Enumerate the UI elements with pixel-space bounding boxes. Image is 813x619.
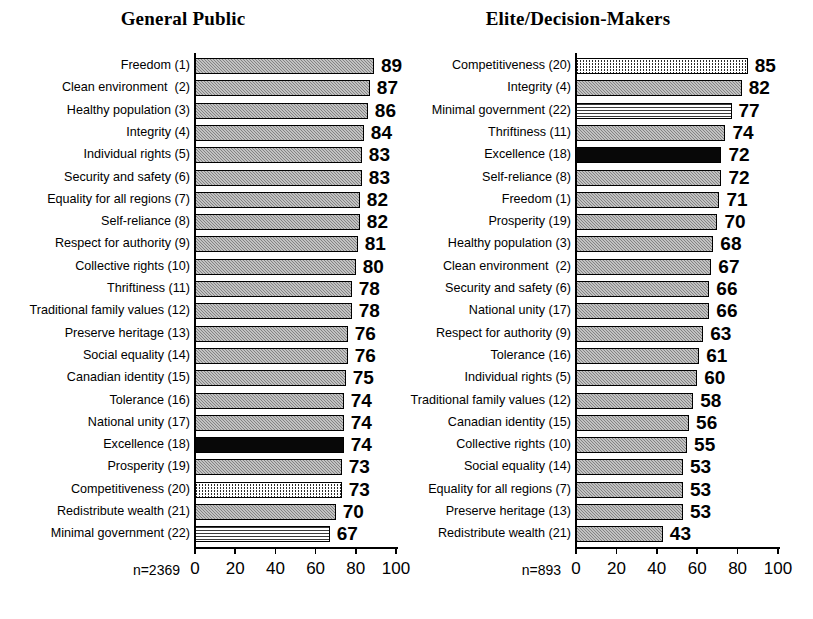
x-axis-tick-label: 40 [647,559,666,579]
bar-row: Thriftiness (11)78 [0,278,410,300]
category-label: Tolerance (16) [110,390,191,412]
bar-row: Individual rights (5)83 [0,144,410,166]
x-axis-tick [616,547,618,554]
bar-value-label: 83 [369,144,390,166]
bar-value-label: 76 [355,323,376,345]
bar [576,103,732,119]
bar-value-label: 56 [696,412,717,434]
x-axis-tick-label: 40 [266,559,285,579]
bar-value-label: 84 [371,122,392,144]
bar [576,259,711,275]
bar-row: Preserve heritage (13)53 [403,501,813,523]
bar [195,437,344,453]
x-axis-tick-label: 60 [688,559,707,579]
category-label: Self-reliance (8) [101,211,190,233]
bar [195,58,374,74]
bar-value-label: 82 [749,77,770,99]
bar-value-label: 87 [377,77,398,99]
bar-value-label: 63 [710,323,731,345]
bar [576,147,721,163]
bar [195,281,352,297]
bar-row: Integrity (4)82 [403,77,813,99]
x-axis-tick [575,547,577,554]
bar [195,393,344,409]
bar-row: Preserve heritage (13)76 [0,323,410,345]
bar-value-label: 74 [732,122,753,144]
bar [576,437,687,453]
category-label: Prosperity (19) [107,456,190,478]
bar-row: Competitiveness (20)85 [403,55,813,77]
x-axis-tick [656,547,658,554]
bar-value-label: 89 [381,55,402,77]
bar-value-label: 74 [351,412,372,434]
bar-value-label: 66 [716,278,737,300]
bar-row: Canadian identity (15)56 [403,412,813,434]
bar [576,58,748,74]
bar [576,281,709,297]
category-label: Freedom (1) [502,189,571,211]
category-label: Social equality (14) [83,345,190,367]
category-label: Prosperity (19) [488,211,571,233]
x-axis-tick-label: 0 [190,559,199,579]
bar-row: Collective rights (10)80 [0,256,410,278]
category-label: Individual rights (5) [465,367,571,389]
y-axis-line [575,53,577,548]
category-label: Clean environment (2) [62,77,190,99]
bar-value-label: 53 [690,479,711,501]
category-label: National unity (17) [469,300,571,322]
category-label: Collective rights (10) [456,434,571,456]
x-axis-line [575,547,780,549]
bar [576,415,689,431]
bar [195,370,346,386]
category-label: Competitiveness (20) [71,479,190,501]
bar-value-label: 75 [353,367,374,389]
bar [195,170,362,186]
bar-row: Freedom (1)89 [0,55,410,77]
bar [195,415,344,431]
bar [576,326,703,342]
bar-value-label: 71 [726,189,747,211]
sample-size-label: n=2369 [100,562,180,578]
bar-value-label: 58 [700,390,721,412]
bar [576,348,699,364]
bar-value-label: 61 [706,345,727,367]
category-label: Thriftiness (11) [107,278,190,300]
x-axis-tick [737,547,739,554]
bar [195,80,370,96]
x-axis-tick [355,547,357,554]
bar [576,393,693,409]
category-label: Equality for all regions (7) [428,479,571,501]
category-label: Equality for all regions (7) [47,189,190,211]
category-label: Redistribute wealth (21) [438,523,571,545]
bar-row: Self-reliance (8)72 [403,167,813,189]
bar [576,125,725,141]
bar [576,170,721,186]
category-label: Self-reliance (8) [482,167,571,189]
bar [195,326,348,342]
bar-row: Equality for all regions (7)53 [403,479,813,501]
bar-row: Clean environment (2)67 [403,256,813,278]
bar-row: Prosperity (19)70 [403,211,813,233]
bar-value-label: 53 [690,501,711,523]
bar [195,147,362,163]
category-label: Excellence (18) [484,144,571,166]
chart-panel-elite-decision-makers: Elite/Decision-Makers Competitiveness (2… [403,0,813,619]
category-label: Tolerance (16) [491,345,572,367]
bar-value-label: 60 [704,367,725,389]
bar-value-label: 78 [359,300,380,322]
category-label: Healthy population (3) [448,233,571,255]
bar-row: Individual rights (5)60 [403,367,813,389]
plot-area-right: Competitiveness (20)85Integrity (4)82Min… [403,0,813,619]
bar [576,303,709,319]
bar-row: Tolerance (16)74 [0,390,410,412]
category-label: Social equality (14) [464,456,571,478]
bar-value-label: 82 [367,211,388,233]
bar [195,482,342,498]
bar-row: Social equality (14)53 [403,456,813,478]
bar-value-label: 73 [349,479,370,501]
bar-row: Redistribute wealth (21)70 [0,501,410,523]
category-label: Security and safety (6) [445,278,571,300]
bar-value-label: 53 [690,456,711,478]
bar-value-label: 76 [355,345,376,367]
x-axis-tick-label: 20 [607,559,626,579]
